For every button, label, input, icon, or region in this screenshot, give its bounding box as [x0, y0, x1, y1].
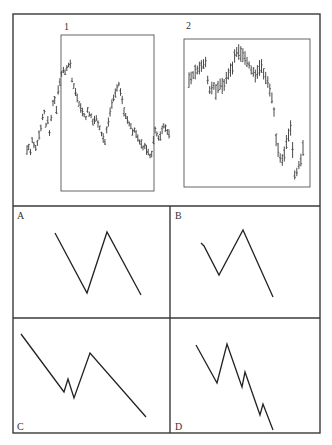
chart-2-label: 2: [186, 20, 191, 31]
pattern-d-line: [196, 344, 273, 430]
pattern-c-line: [21, 334, 146, 417]
pattern-c: C: [17, 334, 146, 432]
chart-1-group: 1: [26, 21, 170, 191]
figure: 1 2 A B C D: [0, 0, 332, 445]
chart-2-group: 2: [184, 20, 310, 187]
chart-1-bars: [26, 60, 170, 159]
pattern-c-label: C: [17, 421, 24, 432]
pattern-a-line: [55, 232, 141, 295]
pattern-b: B: [175, 210, 273, 297]
pattern-a-label: A: [17, 210, 25, 221]
pattern-a: A: [17, 210, 141, 295]
chart-1-highlight-box: [61, 35, 154, 191]
chart-1-label: 1: [64, 21, 69, 32]
pattern-b-label: B: [175, 210, 182, 221]
pattern-b-line: [201, 230, 273, 297]
pattern-d-label: D: [175, 421, 182, 432]
pattern-d: D: [175, 344, 273, 432]
outer-frame: [13, 14, 320, 433]
chart-2-bars: [188, 44, 304, 179]
